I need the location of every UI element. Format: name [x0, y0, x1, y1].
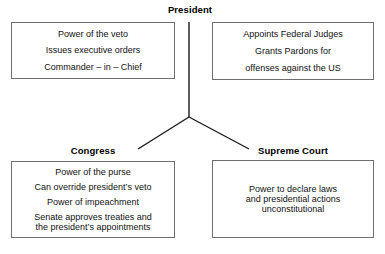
congress-power-senate-approval-group: Senate approves treaties and the preside…	[34, 212, 152, 232]
congress-power-senate-approval-line-1: Senate approves treaties and	[34, 212, 152, 222]
supreme-court-label: Supreme Court	[243, 145, 343, 156]
supreme-court-powers-box: Power to declare laws and presidential a…	[212, 160, 374, 238]
president-legislative-powers-box: Power of the veto Issues executive order…	[11, 22, 175, 79]
congress-label: Congress	[43, 145, 143, 156]
supreme-court-power-line-2: and presidential actions	[246, 194, 341, 204]
branch-to-congress-line	[138, 117, 189, 149]
president-power-pardons-line-1: Grants Pardons for	[245, 46, 340, 56]
supreme-court-power-line-1: Power to declare laws	[249, 184, 337, 194]
congress-powers-box: Power of the purse Can override presiden…	[11, 161, 175, 238]
branch-to-supreme-court-line	[189, 117, 249, 149]
president-power-commander-in-chief: Commander – in – Chief	[44, 62, 142, 72]
supreme-court-power-line-3: unconstitutional	[262, 204, 325, 214]
president-power-pardons-group: Grants Pardons for offenses against the …	[245, 46, 340, 73]
congress-power-impeachment: Power of impeachment	[47, 197, 139, 207]
president-judicial-powers-box: Appoints Federal Judges Grants Pardons f…	[212, 22, 374, 80]
separation-of-powers-diagram: President Power of the veto Issues execu…	[0, 0, 385, 254]
president-power-veto: Power of the veto	[58, 29, 128, 39]
president-power-executive-orders: Issues executive orders	[46, 45, 141, 55]
congress-power-senate-approval-line-2: the president’s appointments	[34, 222, 152, 232]
president-power-pardons-line-2: offenses against the US	[245, 63, 340, 73]
congress-power-purse: Power of the purse	[55, 167, 131, 177]
congress-power-override-veto: Can override president’s veto	[35, 182, 152, 192]
president-power-appoints-judges: Appoints Federal Judges	[243, 29, 343, 39]
president-label: President	[140, 4, 240, 15]
